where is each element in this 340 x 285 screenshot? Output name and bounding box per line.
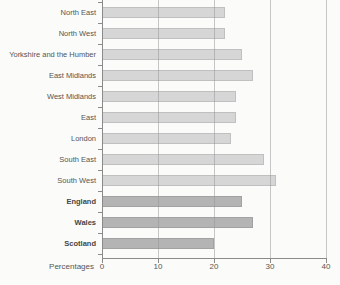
x-tick-30 bbox=[270, 259, 271, 263]
gridline-x-30 bbox=[270, 0, 271, 258]
y-axis-line bbox=[102, 0, 103, 258]
bar-west-midlands bbox=[102, 91, 236, 102]
category-label-east: East bbox=[0, 112, 96, 123]
x-axis-title: Percentages bbox=[0, 262, 94, 271]
category-label-scotland: Scotland bbox=[0, 238, 96, 249]
category-label-london: London bbox=[0, 133, 96, 144]
x-tick-label-10: 10 bbox=[146, 262, 170, 271]
category-label-south-east: South East bbox=[0, 154, 96, 165]
bar-east bbox=[102, 112, 236, 123]
category-label-wales: Wales bbox=[0, 217, 96, 228]
bar-north-east bbox=[102, 7, 225, 18]
bar-south-west bbox=[102, 175, 276, 186]
plot-area: Percentages 010203040North EastNorth Wes… bbox=[0, 0, 340, 285]
bar-south-east bbox=[102, 154, 264, 165]
x-tick-20 bbox=[214, 259, 215, 263]
bar-london bbox=[102, 133, 231, 144]
gridline-x-40 bbox=[326, 0, 327, 258]
category-label-west-midlands: West Midlands bbox=[0, 91, 96, 102]
gridline-x-10 bbox=[158, 0, 159, 258]
gridline-x-20 bbox=[214, 0, 215, 258]
category-label-north-west: North West bbox=[0, 28, 96, 39]
category-label-east-midlands: East Midlands bbox=[0, 70, 96, 81]
x-tick-10 bbox=[158, 259, 159, 263]
x-tick-40 bbox=[326, 259, 327, 263]
bar-england bbox=[102, 196, 242, 207]
category-label-yorkshire-and-the-humber: Yorkshire and the Humber bbox=[0, 49, 96, 60]
bar-east-midlands bbox=[102, 70, 253, 81]
x-tick-label-30: 30 bbox=[258, 262, 282, 271]
category-label-england: England bbox=[0, 196, 96, 207]
x-tick-label-40: 40 bbox=[314, 262, 338, 271]
category-label-north-east: North East bbox=[0, 7, 96, 18]
x-tick-0 bbox=[102, 259, 103, 263]
x-tick-label-20: 20 bbox=[202, 262, 226, 271]
x-tick-label-0: 0 bbox=[90, 262, 114, 271]
bar-chart-figure: Percentages 010203040North EastNorth Wes… bbox=[0, 0, 340, 285]
bar-yorkshire-and-the-humber bbox=[102, 49, 242, 60]
category-label-south-west: South West bbox=[0, 175, 96, 186]
bar-wales bbox=[102, 217, 253, 228]
bar-north-west bbox=[102, 28, 225, 39]
